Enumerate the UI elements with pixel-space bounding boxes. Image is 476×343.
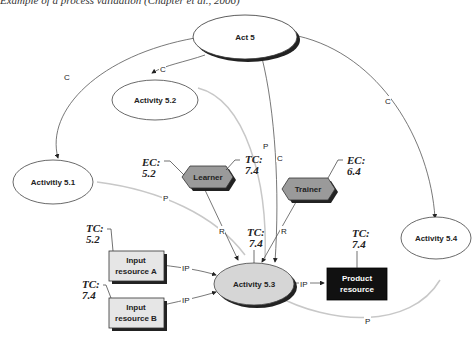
edge-label-c: C [385, 97, 391, 106]
edge-label-ip: IP [182, 296, 190, 305]
node-label: Act 5 [235, 33, 255, 42]
svg-text:6.4: 6.4 [347, 165, 361, 177]
node-act5[interactable]: Act 5 [193, 15, 300, 62]
edge-label-c: C [277, 154, 283, 163]
node-activity-5-4[interactable]: Activity 5.4 [401, 217, 471, 259]
node-product-resource[interactable]: Product resource [327, 268, 387, 300]
learner-ec-annotation: EC: 5.2 [141, 156, 184, 179]
edge-label-c: C [160, 65, 166, 74]
process-diagram: C C C C P P P R R IP IP IP Act 5 Activit… [0, 0, 476, 343]
edge-label-p: P [365, 317, 370, 326]
edge-label-r: R [219, 227, 225, 236]
node-input-resource-a[interactable]: Input resource A [109, 251, 167, 284]
edge-label-c: C [64, 73, 70, 82]
svg-text:resource: resource [340, 285, 374, 294]
edge-label-p: P [163, 194, 168, 203]
node-trainer[interactable]: Trainer [282, 178, 338, 203]
trainer-ec-annotation: EC: 6.4 [328, 154, 365, 178]
svg-text:7.4: 7.4 [249, 237, 263, 249]
product-tc-annotation: TC: 7.4 [352, 227, 370, 268]
svg-text:Input: Input [126, 303, 146, 312]
edge-label-r: R [281, 227, 287, 236]
node-label: Trainer [295, 185, 322, 194]
learner-tc-annotation: TC: 7.4 [226, 153, 263, 176]
svg-text:Input: Input [126, 256, 146, 265]
node-label: Activity 5.3 [233, 280, 276, 289]
edges-c [56, 36, 435, 262]
node-input-resource-b[interactable]: Input resource B [109, 298, 167, 331]
activity-5-3-tc-annotation: TC: 7.4 [247, 226, 265, 263]
svg-text:5.2: 5.2 [142, 167, 156, 179]
node-label: Activitly 5.1 [31, 178, 76, 187]
node-label: Activity 5.4 [415, 234, 458, 243]
input-b-tc-annotation: TC: 7.4 [82, 278, 111, 301]
svg-text:5.2: 5.2 [86, 233, 100, 245]
node-learner[interactable]: Learner [182, 166, 236, 191]
node-label: Learner [193, 173, 222, 182]
node-activity-5-3[interactable]: Activity 5.3 [214, 263, 297, 308]
edge-label-p: P [263, 142, 268, 151]
svg-text:7.4: 7.4 [82, 289, 96, 301]
edge-label-ip: IP [182, 264, 190, 273]
input-a-tc-annotation: TC: 5.2 [86, 222, 113, 251]
svg-text:7.4: 7.4 [245, 164, 259, 176]
node-activity-5-2[interactable]: Activity 5.2 [112, 80, 198, 120]
svg-text:resource B: resource B [115, 314, 157, 323]
svg-text:7.4: 7.4 [352, 238, 366, 250]
node-label: Activity 5.2 [134, 96, 177, 105]
edge-label-ip: IP [300, 280, 308, 289]
node-activity-5-1[interactable]: Activitly 5.1 [13, 160, 93, 204]
svg-text:Product: Product [342, 274, 373, 283]
svg-text:resource A: resource A [115, 267, 157, 276]
